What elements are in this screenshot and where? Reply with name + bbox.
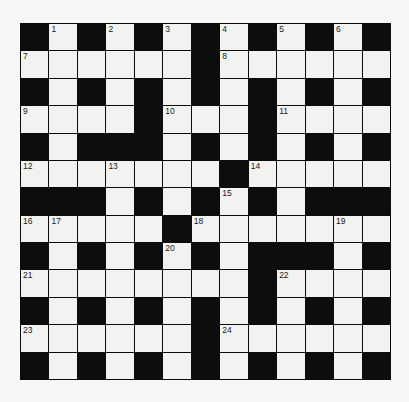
answer-cell[interactable]: 12 <box>21 161 48 187</box>
answer-cell[interactable] <box>163 161 190 187</box>
answer-cell[interactable] <box>220 134 247 160</box>
answer-cell[interactable]: 4 <box>220 24 247 50</box>
answer-cell[interactable] <box>106 298 133 324</box>
answer-cell[interactable] <box>106 188 133 214</box>
answer-cell[interactable] <box>277 51 304 77</box>
answer-cell[interactable] <box>277 325 304 351</box>
answer-cell[interactable] <box>163 298 190 324</box>
answer-cell[interactable] <box>249 216 276 242</box>
answer-cell[interactable] <box>306 106 333 132</box>
answer-cell[interactable] <box>249 325 276 351</box>
answer-cell[interactable] <box>306 51 333 77</box>
answer-cell[interactable] <box>106 216 133 242</box>
answer-cell[interactable] <box>306 325 333 351</box>
answer-cell[interactable] <box>363 216 390 242</box>
answer-cell[interactable]: 11 <box>277 106 304 132</box>
answer-cell[interactable] <box>135 325 162 351</box>
answer-cell[interactable]: 2 <box>106 24 133 50</box>
answer-cell[interactable]: 7 <box>21 51 48 77</box>
answer-cell[interactable]: 21 <box>21 270 48 296</box>
answer-cell[interactable] <box>334 51 361 77</box>
answer-cell[interactable] <box>334 134 361 160</box>
answer-cell[interactable]: 18 <box>192 216 219 242</box>
answer-cell[interactable] <box>220 79 247 105</box>
answer-cell[interactable]: 9 <box>21 106 48 132</box>
answer-cell[interactable] <box>334 243 361 269</box>
answer-cell[interactable] <box>135 270 162 296</box>
answer-cell[interactable]: 19 <box>334 216 361 242</box>
answer-cell[interactable] <box>49 161 76 187</box>
answer-cell[interactable]: 22 <box>277 270 304 296</box>
answer-cell[interactable] <box>277 216 304 242</box>
answer-cell[interactable] <box>106 79 133 105</box>
answer-cell[interactable] <box>363 51 390 77</box>
answer-cell[interactable] <box>363 106 390 132</box>
answer-cell[interactable]: 20 <box>163 243 190 269</box>
answer-cell[interactable] <box>106 51 133 77</box>
answer-cell[interactable] <box>277 353 304 379</box>
answer-cell[interactable] <box>249 51 276 77</box>
answer-cell[interactable]: 24 <box>220 325 247 351</box>
answer-cell[interactable] <box>306 161 333 187</box>
answer-cell[interactable] <box>277 161 304 187</box>
answer-cell[interactable] <box>49 51 76 77</box>
answer-cell[interactable]: 1 <box>49 24 76 50</box>
answer-cell[interactable] <box>334 325 361 351</box>
answer-cell[interactable] <box>334 161 361 187</box>
answer-cell[interactable] <box>334 353 361 379</box>
answer-cell[interactable] <box>163 325 190 351</box>
answer-cell[interactable] <box>163 51 190 77</box>
answer-cell[interactable] <box>78 325 105 351</box>
answer-cell[interactable] <box>78 51 105 77</box>
answer-cell[interactable] <box>334 106 361 132</box>
answer-cell[interactable] <box>363 270 390 296</box>
answer-cell[interactable] <box>78 161 105 187</box>
answer-cell[interactable] <box>78 216 105 242</box>
answer-cell[interactable] <box>363 325 390 351</box>
answer-cell[interactable] <box>106 270 133 296</box>
answer-cell[interactable]: 8 <box>220 51 247 77</box>
answer-cell[interactable] <box>78 270 105 296</box>
answer-cell[interactable] <box>306 270 333 296</box>
answer-cell[interactable] <box>49 270 76 296</box>
answer-cell[interactable] <box>192 161 219 187</box>
answer-cell[interactable] <box>135 51 162 77</box>
answer-cell[interactable] <box>277 298 304 324</box>
answer-cell[interactable] <box>192 106 219 132</box>
answer-cell[interactable] <box>135 161 162 187</box>
answer-cell[interactable] <box>163 270 190 296</box>
answer-cell[interactable] <box>277 134 304 160</box>
answer-cell[interactable]: 14 <box>249 161 276 187</box>
answer-cell[interactable] <box>277 188 304 214</box>
answer-cell[interactable] <box>277 79 304 105</box>
answer-cell[interactable] <box>306 216 333 242</box>
answer-cell[interactable] <box>334 79 361 105</box>
answer-cell[interactable] <box>49 353 76 379</box>
answer-cell[interactable] <box>49 243 76 269</box>
answer-cell[interactable] <box>220 353 247 379</box>
answer-cell[interactable]: 3 <box>163 24 190 50</box>
answer-cell[interactable] <box>49 106 76 132</box>
answer-cell[interactable]: 17 <box>49 216 76 242</box>
answer-cell[interactable] <box>106 243 133 269</box>
answer-cell[interactable]: 16 <box>21 216 48 242</box>
answer-cell[interactable] <box>106 353 133 379</box>
answer-cell[interactable] <box>334 298 361 324</box>
answer-cell[interactable] <box>163 188 190 214</box>
answer-cell[interactable] <box>135 216 162 242</box>
answer-cell[interactable] <box>220 243 247 269</box>
answer-cell[interactable] <box>220 106 247 132</box>
answer-cell[interactable]: 6 <box>334 24 361 50</box>
answer-cell[interactable] <box>78 106 105 132</box>
answer-cell[interactable] <box>106 325 133 351</box>
answer-cell[interactable] <box>334 270 361 296</box>
answer-cell[interactable] <box>163 134 190 160</box>
answer-cell[interactable] <box>363 161 390 187</box>
answer-cell[interactable] <box>163 353 190 379</box>
answer-cell[interactable] <box>192 270 219 296</box>
answer-cell[interactable] <box>49 134 76 160</box>
answer-cell[interactable] <box>220 216 247 242</box>
answer-cell[interactable]: 10 <box>163 106 190 132</box>
answer-cell[interactable]: 15 <box>220 188 247 214</box>
answer-cell[interactable]: 13 <box>106 161 133 187</box>
